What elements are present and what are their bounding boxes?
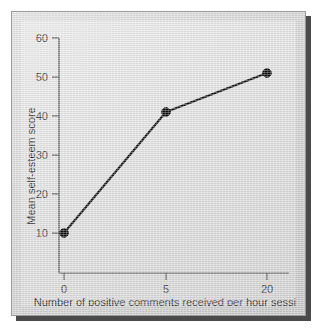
plot-field: 60 50 40 30 20 10 0 5 20: [21, 21, 296, 306]
data-point-2: [263, 69, 272, 78]
figure-root: 60 50 40 30 20 10 0 5 20: [0, 0, 320, 335]
data-point-1: [162, 108, 171, 117]
y-tick-label-50: 50: [36, 71, 48, 83]
line-chart-svg: 60 50 40 30 20 10 0 5 20: [21, 21, 296, 306]
y-tick-label-60: 60: [36, 32, 48, 44]
y-tick-label-10: 10: [36, 227, 48, 239]
chart-panel: 60 50 40 30 20 10 0 5 20: [11, 11, 306, 316]
y-tick-label-30: 30: [36, 149, 48, 161]
y-tick-label-40: 40: [36, 110, 48, 122]
x-tick-label-20: 20: [261, 283, 273, 295]
x-tick-label-0: 0: [61, 283, 67, 295]
x-axis-title: Number of positive comments received per…: [34, 296, 296, 306]
y-axis-title: Mean self-esteem score: [25, 107, 37, 224]
y-tick-label-20: 20: [36, 188, 48, 200]
series-line-mean-self-esteem: [64, 73, 267, 233]
x-tick-label-5: 5: [163, 283, 169, 295]
data-point-0: [60, 229, 69, 238]
